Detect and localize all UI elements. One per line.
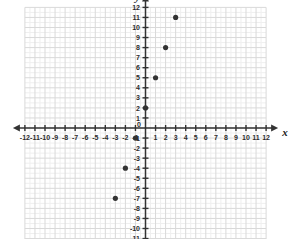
data-point: (-3, -7) — [113, 196, 118, 201]
y-tick-label: 7 — [136, 54, 140, 61]
y-tick-label: 5 — [136, 74, 140, 81]
x-tick-label: -9 — [52, 134, 58, 141]
x-tick-label: 8 — [224, 134, 228, 141]
x-tick-label: 9 — [234, 134, 238, 141]
x-tick-label: 2 — [164, 134, 168, 141]
y-tick-label: 10 — [132, 24, 140, 31]
x-tick-label: -8 — [62, 134, 68, 141]
x-tick-label: 1 — [154, 134, 158, 141]
x-tick-label: -3 — [112, 134, 118, 141]
origin-label: 0 — [137, 121, 141, 128]
y-tick-label: -2 — [134, 145, 140, 152]
y-axis-name-label: y — [133, 0, 140, 3]
x-tick-label: -6 — [82, 134, 88, 141]
x-tick-label: -4 — [102, 134, 108, 141]
x-tick-label: 5 — [194, 134, 198, 141]
data-point: (-1, -1) — [133, 135, 138, 140]
y-tick-label: -6 — [134, 185, 140, 192]
data-point: (0, 2) — [143, 105, 148, 110]
x-tick-label: -2 — [122, 134, 128, 141]
origin-label: 0 — [137, 121, 141, 128]
y-tick-label: 2 — [136, 105, 140, 112]
x-tick-label: 12 — [262, 134, 270, 141]
y-axis-arrow-up — [142, 0, 149, 1]
y-tick-label: -8 — [134, 205, 140, 212]
coordinate-plane-figure: -12-11-10-9-8-7-6-5-4-3-2-11234567891011… — [0, 0, 291, 239]
y-tick-label: -10 — [130, 225, 140, 232]
x-tick-label: -11 — [30, 134, 40, 141]
data-point: (1, 5) — [153, 75, 158, 80]
y-tick-label: 11 — [133, 14, 141, 21]
x-tick-label: 11 — [252, 134, 260, 141]
coordinate-plane-svg: -12-11-10-9-8-7-6-5-4-3-2-11234567891011… — [0, 0, 291, 239]
x-tick-label: 10 — [242, 134, 250, 141]
y-tick-label: -11 — [130, 235, 140, 239]
y-tick-label: -4 — [134, 165, 140, 172]
x-tick-label: 6 — [204, 134, 208, 141]
x-tick-label: -10 — [40, 134, 50, 141]
y-tick-label: -5 — [134, 175, 140, 182]
x-tick-label: 7 — [214, 134, 218, 141]
y-tick-label: 3 — [136, 94, 140, 101]
data-point: (-2, -4) — [123, 166, 128, 171]
y-tick-label: -7 — [134, 195, 140, 202]
y-tick-label: 4 — [136, 84, 140, 91]
y-tick-label: 9 — [136, 34, 140, 41]
data-point: (2, 8) — [163, 45, 168, 50]
x-tick-label: -5 — [92, 134, 98, 141]
x-axis-name-label: x — [281, 126, 288, 138]
x-tick-label: -12 — [20, 134, 30, 141]
x-tick-label: 3 — [174, 134, 178, 141]
y-tick-label: 6 — [136, 64, 140, 71]
y-tick-label: 12 — [132, 4, 140, 11]
data-point: (3, 11) — [173, 15, 178, 20]
x-tick-label: -7 — [72, 134, 78, 141]
y-tick-label: -3 — [134, 155, 140, 162]
y-tick-label: -9 — [134, 215, 140, 222]
y-tick-label: 8 — [136, 44, 140, 51]
x-tick-label: 4 — [184, 134, 188, 141]
